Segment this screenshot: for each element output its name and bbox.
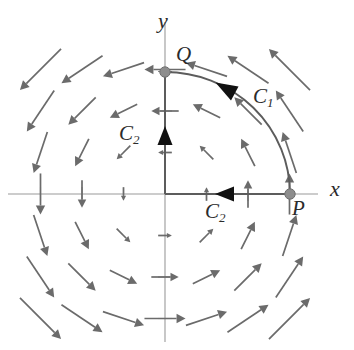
point-p-label: P [292, 198, 305, 219]
field-arrow-shaft [269, 304, 304, 339]
field-arrow-head-icon [40, 246, 49, 256]
field-arrow-head-icon [121, 196, 126, 201]
field-arrow-shaft [79, 139, 89, 158]
field-arrow-shaft [34, 215, 45, 248]
field-arrow-shaft [281, 98, 303, 132]
field-arrow-shaft [186, 315, 219, 326]
field-arrow-shaft [234, 270, 255, 291]
field-arrow-shaft [69, 56, 103, 78]
field-arrow-head-icon [134, 318, 144, 327]
field-arrow-head-icon [167, 233, 172, 238]
curve-c2-horizontal-label: C2 [205, 201, 226, 224]
field-arrow-shaft [20, 298, 55, 333]
curve-c2-horizontal-letter: C [205, 199, 219, 223]
field-arrow-head-icon [92, 323, 102, 332]
field-arrow-head-icon [217, 310, 227, 319]
field-arrow-head-icon [36, 206, 45, 215]
field-arrow-head-icon [258, 305, 268, 314]
c2-vertical-arrowhead-icon [158, 126, 173, 145]
field-arrow-shaft [27, 256, 49, 290]
curve-c2-vertical-letter: C [119, 121, 133, 145]
field-arrow-head-icon [32, 163, 41, 173]
field-arrow-head-icon [103, 69, 113, 78]
field-arrow-shaft [61, 305, 95, 327]
field-arrow-shaft [103, 312, 136, 323]
field-arrow-head-icon [170, 273, 178, 282]
field-arrow-head-icon [244, 180, 253, 188]
field-arrow-head-icon [281, 132, 290, 142]
field-arrow-head-icon [177, 314, 186, 323]
point-q-label: Q [176, 44, 191, 65]
field-arrow-shaft [75, 97, 96, 118]
field-arrow-shaft [68, 263, 89, 284]
field-arrow-shaft [26, 49, 61, 84]
field-arrow-shaft [275, 55, 310, 90]
field-arrow-shaft [193, 274, 212, 284]
field-arrow-head-icon [276, 90, 285, 100]
field-arrow-shaft [110, 270, 129, 280]
field-arrow-shaft [112, 63, 145, 74]
curve-c1-label: C1 [253, 86, 274, 109]
point-q-marker [160, 67, 170, 77]
field-arrow-head-icon [158, 150, 163, 155]
field-arrow-shaft [121, 146, 131, 156]
field-arrow-head-icon [45, 287, 54, 297]
field-arrow-shaft [204, 150, 214, 160]
field-arrow-head-icon [61, 74, 71, 83]
field-arrow-shaft [117, 229, 127, 239]
vector-field-figure: y x Q P C1 C2 C2 [0, 0, 354, 350]
field-arrow-head-icon [227, 56, 237, 65]
field-arrow-shaft [245, 147, 255, 166]
field-arrow-shaft [201, 108, 220, 118]
field-arrow-head-icon [204, 187, 209, 192]
field-arrow-shaft [37, 132, 48, 165]
field-arrow-head-icon [27, 121, 36, 131]
field-arrow-shaft [241, 230, 251, 249]
curve-c1-letter: C [253, 84, 267, 108]
field-arrow-shaft [227, 310, 261, 332]
field-arrow-shaft [235, 61, 269, 83]
field-arrow-shaft [118, 104, 137, 114]
field-arrow-shaft [75, 222, 85, 241]
curve-c1-subscript: 1 [267, 95, 274, 110]
field-arrow-shaft [195, 66, 228, 77]
field-arrow-shaft [200, 233, 210, 243]
field-arrow-shaft [283, 224, 294, 257]
field-arrow-shaft [32, 90, 54, 124]
field-arrow-shaft [276, 264, 298, 298]
field-arrow-head-icon [78, 199, 87, 207]
x-axis-label: x [330, 178, 340, 200]
field-arrow-head-icon [144, 65, 153, 74]
field-arrow-head-icon [151, 107, 159, 116]
y-axis-label: y [158, 10, 168, 32]
curve-c2-vertical-label: C2 [119, 123, 140, 146]
curve-c2-vertical-subscript: 2 [133, 132, 140, 147]
field-arrow-head-icon [294, 256, 303, 266]
curve-c2-horizontal-subscript: 2 [219, 210, 226, 225]
